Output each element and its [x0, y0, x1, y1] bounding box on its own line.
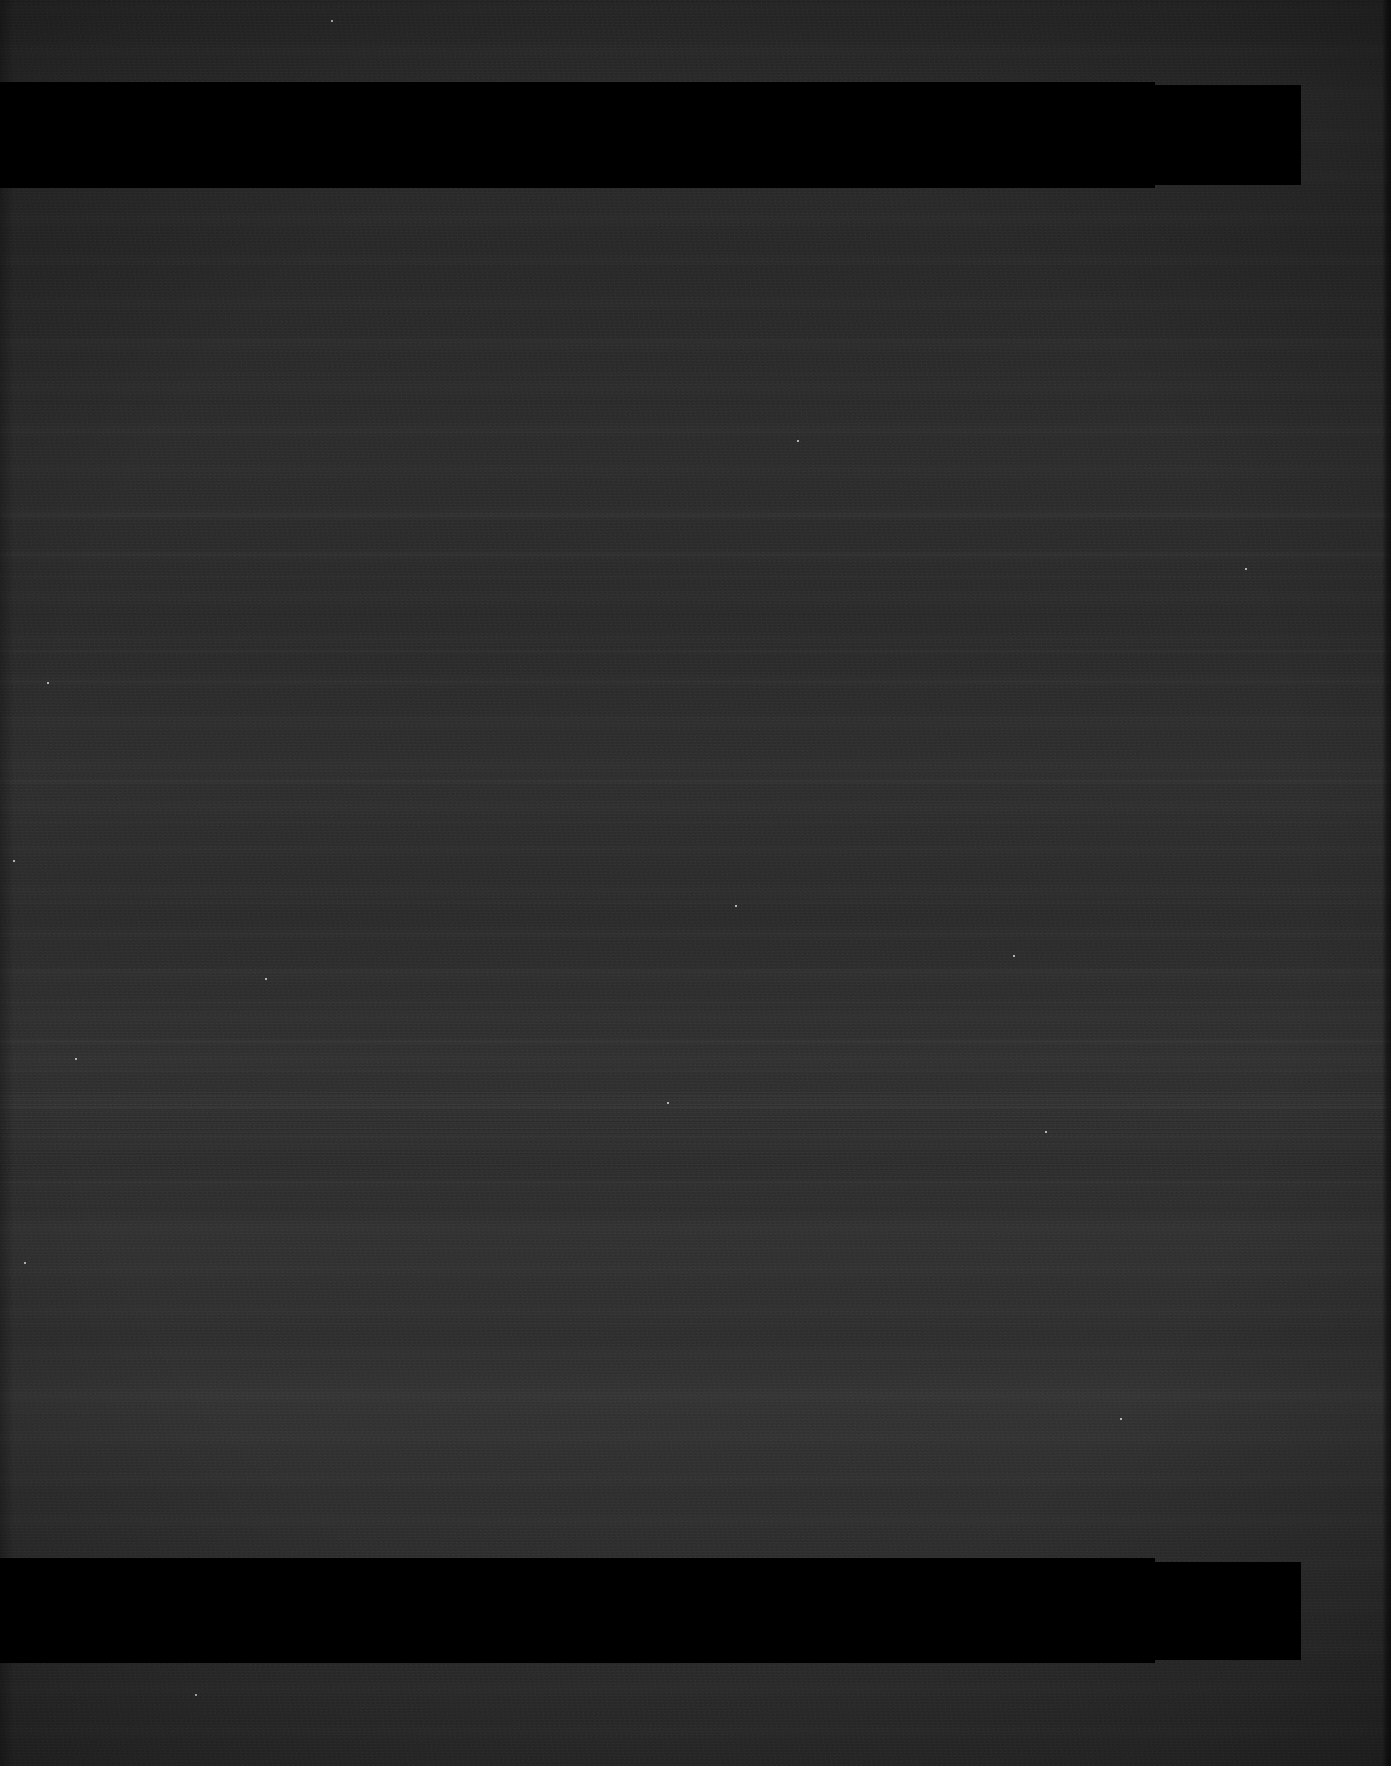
upper-redaction-bar-extension: [0, 85, 1301, 185]
vertical-luminance-gradient: [0, 0, 1391, 1766]
image-canvas: [0, 0, 1391, 1766]
lower-redaction-bar-extension: [0, 1562, 1301, 1660]
